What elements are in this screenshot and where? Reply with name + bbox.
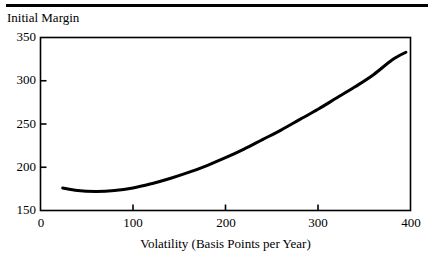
y-tick-label-350: 350 <box>2 30 36 44</box>
margin-volatility-curve <box>63 52 406 191</box>
figure-panel: Initial Margin 350 300 250 200 150 0 100… <box>0 0 434 260</box>
y-tick-label-300: 300 <box>2 73 36 87</box>
x-tick-label-300: 300 <box>298 216 338 230</box>
x-tick-label-0: 0 <box>21 216 61 230</box>
x-tick-label-200: 200 <box>206 216 246 230</box>
plot-frame <box>41 38 411 211</box>
y-tick-label-150: 150 <box>2 203 36 217</box>
x-tick-label-400: 400 <box>391 216 431 230</box>
x-axis-ticks <box>133 205 318 211</box>
y-tick-label-250: 250 <box>2 117 36 131</box>
x-tick-label-100: 100 <box>113 216 153 230</box>
y-tick-label-200: 200 <box>2 160 36 174</box>
x-axis-caption: Volatility (Basis Points per Year) <box>40 236 411 251</box>
y-axis-ticks <box>41 81 47 168</box>
